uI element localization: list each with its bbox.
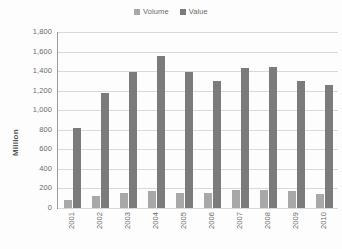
bar-value-2010[interactable]: [325, 85, 333, 208]
bar-group: [310, 32, 338, 208]
legend-label-volume: Volume: [143, 8, 169, 16]
x-axis-tick-cell: 2005: [170, 209, 198, 249]
x-axis-tick-cell: 2001: [58, 209, 86, 249]
bar-value-2009[interactable]: [297, 81, 305, 208]
bar-volume-2006[interactable]: [204, 193, 212, 208]
bar-value-2006[interactable]: [213, 81, 221, 208]
bar-volume-2008[interactable]: [260, 190, 268, 208]
y-axis-tick-label: 400: [39, 165, 52, 173]
x-axis-tick-label: 2005: [180, 212, 188, 229]
y-axis-tick-label: 800: [39, 126, 52, 134]
bar-groups: [58, 32, 338, 208]
x-axis-ticks: 2001200220032004200520062007200820092010: [58, 209, 338, 249]
x-axis-tick-label: 2002: [96, 212, 104, 229]
x-axis-tick-label: 2004: [152, 212, 160, 229]
bar-value-2007[interactable]: [241, 68, 249, 208]
bar-group: [198, 32, 226, 208]
bar-value-2005[interactable]: [185, 72, 193, 208]
x-axis-tick-cell: 2008: [254, 209, 282, 249]
bar-group: [170, 32, 198, 208]
y-axis-tick-label: 1,600: [33, 48, 52, 56]
x-axis-tick-label: 2006: [208, 212, 216, 229]
plot-area: [58, 32, 338, 208]
legend-item-value[interactable]: Value: [180, 8, 208, 16]
bar-value-2004[interactable]: [157, 56, 165, 208]
bar-group: [58, 32, 86, 208]
bar-group: [226, 32, 254, 208]
bar-volume-2010[interactable]: [316, 194, 324, 208]
x-axis-tick-cell: 2007: [226, 209, 254, 249]
y-axis-ticks: 02004006008001,0001,2001,4001,6001,800: [0, 0, 56, 249]
bar-group: [254, 32, 282, 208]
x-axis-tick-label: 2008: [264, 212, 272, 229]
bar-chart: Volume Value Million 02004006008001,0001…: [0, 0, 342, 249]
y-axis-tick-label: 1,200: [33, 87, 52, 95]
legend-label-value: Value: [189, 8, 208, 16]
y-axis-tick-label: 1,800: [33, 28, 52, 36]
bar-volume-2005[interactable]: [176, 193, 184, 208]
bar-group: [86, 32, 114, 208]
bar-value-2003[interactable]: [129, 72, 137, 208]
bar-group: [142, 32, 170, 208]
bar-volume-2004[interactable]: [148, 191, 156, 208]
y-axis-tick-label: 0: [48, 204, 52, 212]
x-axis-tick-cell: 2003: [114, 209, 142, 249]
x-axis-tick-cell: 2009: [282, 209, 310, 249]
legend-item-volume[interactable]: Volume: [134, 8, 169, 16]
bar-volume-2009[interactable]: [288, 191, 296, 208]
bar-value-2001[interactable]: [73, 128, 81, 208]
bar-volume-2001[interactable]: [64, 200, 72, 208]
x-axis-tick-label: 2009: [292, 212, 300, 229]
x-axis-tick-label: 2003: [124, 212, 132, 229]
y-axis-tick-label: 600: [39, 146, 52, 154]
x-axis-tick-cell: 2002: [86, 209, 114, 249]
x-axis-tick-cell: 2006: [198, 209, 226, 249]
y-axis-tick-label: 200: [39, 185, 52, 193]
bar-volume-2002[interactable]: [92, 196, 100, 208]
x-axis-tick-cell: 2004: [142, 209, 170, 249]
bar-group: [114, 32, 142, 208]
y-axis-tick-label: 1,000: [33, 106, 52, 114]
bar-volume-2007[interactable]: [232, 190, 240, 208]
x-axis-tick-label: 2010: [320, 212, 328, 229]
bar-value-2008[interactable]: [269, 67, 277, 208]
legend-swatch-volume-icon: [134, 9, 140, 15]
bar-volume-2003[interactable]: [120, 193, 128, 208]
legend-swatch-value-icon: [180, 9, 186, 15]
bar-group: [282, 32, 310, 208]
x-axis-tick-cell: 2010: [310, 209, 338, 249]
x-axis-tick-label: 2007: [236, 212, 244, 229]
y-axis-tick-label: 1,400: [33, 67, 52, 75]
bar-value-2002[interactable]: [101, 93, 109, 208]
x-axis-tick-label: 2001: [68, 212, 76, 229]
